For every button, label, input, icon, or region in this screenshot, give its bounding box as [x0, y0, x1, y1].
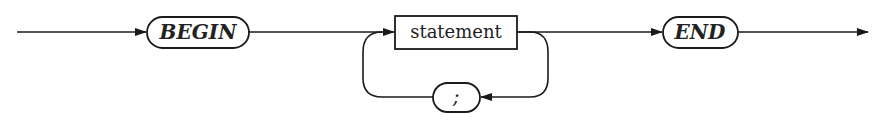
begin-label: BEGIN — [159, 20, 238, 44]
end-label: END — [674, 20, 727, 44]
begin-terminal: BEGIN — [147, 17, 249, 48]
semicolon-label: ; — [452, 84, 460, 108]
statement-nonterminal: statement — [395, 16, 517, 49]
syntax-diagram: BEGIN statement ; END — [0, 0, 883, 121]
semicolon-terminal: ; — [433, 83, 480, 112]
statement-label: statement — [410, 21, 502, 42]
end-terminal: END — [663, 17, 738, 48]
